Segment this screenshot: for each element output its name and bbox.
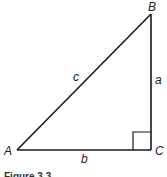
vertex-label-a: A bbox=[3, 144, 12, 158]
side-label-c: c bbox=[73, 70, 79, 84]
right-triangle-diagram: B A C a c b Figure 3.3 bbox=[0, 0, 167, 177]
vertex-label-c: C bbox=[155, 144, 164, 158]
triangle bbox=[17, 14, 151, 150]
side-label-b: b bbox=[81, 152, 88, 166]
figure-caption: Figure 3.3 bbox=[4, 171, 52, 177]
vertex-label-b: B bbox=[148, 0, 156, 14]
side-label-a: a bbox=[155, 73, 162, 87]
side-c-hypotenuse bbox=[17, 14, 151, 150]
right-angle-marker bbox=[133, 132, 151, 150]
